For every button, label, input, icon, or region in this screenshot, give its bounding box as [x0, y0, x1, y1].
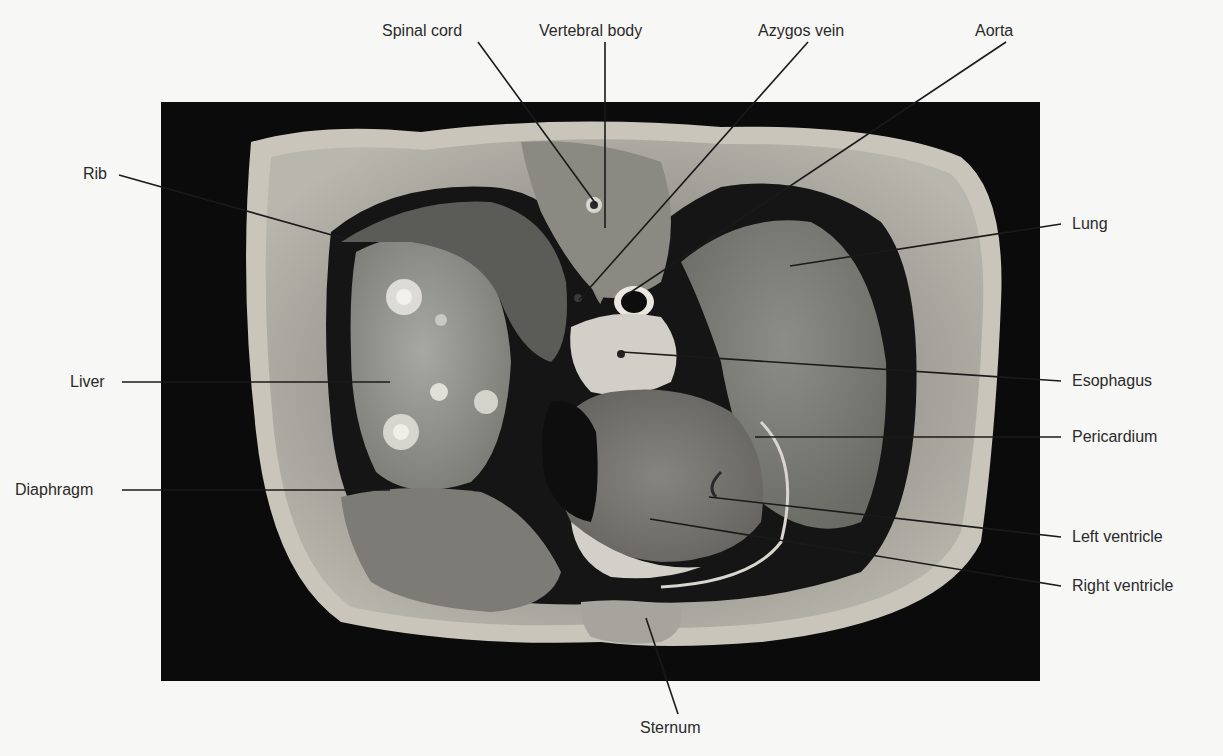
- label-spinal-cord: Spinal cord: [382, 22, 462, 40]
- label-diaphragm: Diaphragm: [15, 481, 93, 499]
- thorax-cross-section: [161, 102, 1040, 681]
- label-azygos-vein: Azygos vein: [758, 22, 844, 40]
- label-right-ventricle: Right ventricle: [1072, 577, 1173, 595]
- label-lung: Lung: [1072, 215, 1108, 233]
- label-left-ventricle: Left ventricle: [1072, 528, 1163, 546]
- label-liver: Liver: [70, 373, 105, 391]
- label-esophagus: Esophagus: [1072, 372, 1152, 390]
- label-vertebral-body: Vertebral body: [539, 22, 642, 40]
- label-pericardium: Pericardium: [1072, 428, 1157, 446]
- label-sternum: Sternum: [640, 719, 700, 737]
- anatomical-photo: [161, 102, 1040, 681]
- label-aorta: Aorta: [975, 22, 1013, 40]
- label-rib: Rib: [83, 165, 107, 183]
